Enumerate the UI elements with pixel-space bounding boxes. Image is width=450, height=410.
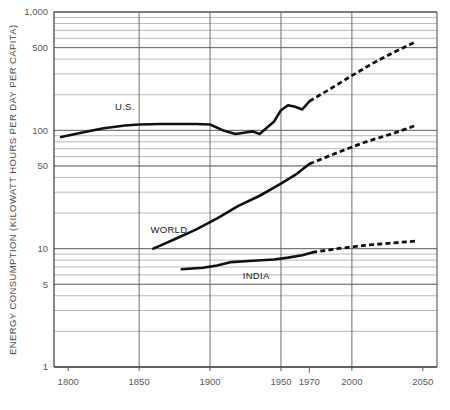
x-tick-1970: 1970 xyxy=(299,376,320,387)
y-tick-1000: 1,000 xyxy=(24,6,48,17)
x-tick-1900: 1900 xyxy=(199,376,220,387)
x-tick-1800: 1800 xyxy=(58,376,79,387)
y-tick-1: 1 xyxy=(43,361,48,372)
y-tick-500: 500 xyxy=(32,42,48,53)
energy-consumption-log-chart: U.S.WORLDINDIA 1,000500100501051 1800185… xyxy=(0,0,450,410)
x-tick-2050: 2050 xyxy=(412,376,433,387)
y-tick-100: 100 xyxy=(32,125,48,136)
chart-background xyxy=(0,0,450,410)
x-tick-2000: 2000 xyxy=(341,376,362,387)
chart-container: U.S.WORLDINDIA 1,000500100501051 1800185… xyxy=(0,0,450,410)
series-label-india: INDIA xyxy=(243,270,270,281)
y-axis-title: ENERGY CONSUMPTION (KILOWATT HOURS PER D… xyxy=(7,24,18,355)
y-tick-50: 50 xyxy=(37,160,48,171)
x-tick-1850: 1850 xyxy=(129,376,150,387)
x-tick-1950: 1950 xyxy=(270,376,291,387)
y-tick-10: 10 xyxy=(37,243,48,254)
y-tick-5: 5 xyxy=(43,279,48,290)
series-label-world: WORLD xyxy=(151,224,188,235)
series-label-us: U.S. xyxy=(115,101,135,112)
